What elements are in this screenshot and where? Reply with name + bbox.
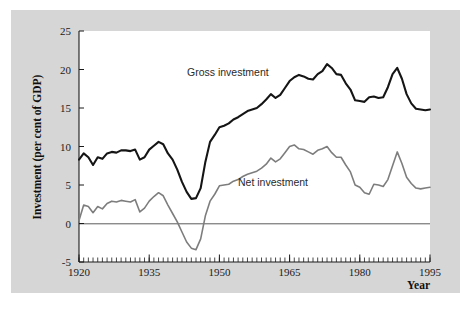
annotation-net-investment: Net investment: [238, 176, 308, 188]
y-tick-label-25: 25: [60, 25, 72, 37]
x-tick-label-1980: 1980: [349, 266, 372, 278]
y-axis-title: Investment (per cent of GDP): [31, 74, 44, 219]
chart-figure: -50510152025 192019351950196519801995 Gr…: [0, 0, 471, 312]
y-tick-label-20: 20: [60, 64, 72, 76]
x-tick-label-1920: 1920: [68, 266, 91, 278]
y-tick-label-15: 15: [60, 102, 72, 114]
x-tick-label-1995: 1995: [419, 266, 442, 278]
y-tick-label-5: 5: [66, 179, 72, 191]
y-tick-label-0: 0: [66, 218, 72, 230]
investment-line-chart: -50510152025 192019351950196519801995 Gr…: [0, 0, 471, 312]
y-tick-label-10: 10: [60, 141, 72, 153]
x-axis-title: Year: [407, 279, 430, 291]
x-tick-label-1935: 1935: [138, 266, 161, 278]
annotation-gross-investment: Gross investment: [187, 66, 269, 78]
x-tick-label-1950: 1950: [208, 266, 231, 278]
y-axis-tick-labels: -50510152025: [60, 25, 72, 268]
x-tick-label-1965: 1965: [279, 266, 302, 278]
x-axis-tick-labels: 192019351950196519801995: [68, 266, 442, 278]
